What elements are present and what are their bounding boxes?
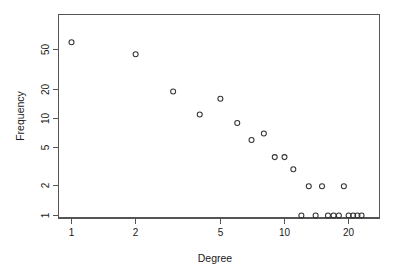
scatter-plot-figure: 50 20 10 5 2 1 Frequency 1 2 5 10 20 Deg…: [0, 0, 395, 274]
data-point: [218, 96, 223, 101]
plot-frame-box: [59, 15, 380, 219]
y-tick-label-1: 1: [40, 212, 51, 218]
data-points-layer: [69, 40, 364, 218]
data-point: [261, 131, 266, 136]
data-point: [325, 213, 330, 218]
y-tick-label-5: 5: [40, 144, 51, 150]
data-point: [299, 213, 304, 218]
y-tick-label-10: 10: [40, 113, 51, 125]
y-tick-label-20: 20: [40, 84, 51, 96]
x-axis-ticks: [72, 218, 349, 224]
data-point: [291, 167, 296, 172]
data-point: [197, 112, 202, 117]
plot-canvas: 50 20 10 5 2 1 Frequency 1 2 5 10 20 Deg…: [0, 0, 395, 274]
y-tick-label-2: 2: [40, 182, 51, 188]
y-axis-tick-labels: 50 20 10 5 2 1: [40, 44, 51, 219]
data-point: [341, 184, 346, 189]
data-point: [235, 120, 240, 125]
x-axis-tick-labels: 1 2 5 10 20: [69, 227, 355, 238]
x-tick-label-2: 2: [133, 227, 139, 238]
y-axis-ticks: [53, 50, 59, 216]
data-point: [69, 40, 74, 45]
x-tick-label-1: 1: [69, 227, 75, 238]
data-point: [249, 138, 254, 143]
data-point: [306, 184, 311, 189]
data-point: [320, 184, 325, 189]
x-tick-label-5: 5: [218, 227, 224, 238]
data-point: [282, 155, 287, 160]
y-tick-label-50: 50: [40, 44, 51, 56]
x-axis-title: Degree: [198, 252, 233, 264]
data-point: [133, 52, 138, 57]
data-point: [171, 89, 176, 94]
data-point: [313, 213, 318, 218]
data-point: [331, 213, 336, 218]
data-point: [336, 213, 341, 218]
data-point: [272, 155, 277, 160]
y-axis-title: Frequency: [14, 90, 26, 140]
x-tick-label-20: 20: [343, 227, 355, 238]
x-tick-label-10: 10: [279, 227, 291, 238]
